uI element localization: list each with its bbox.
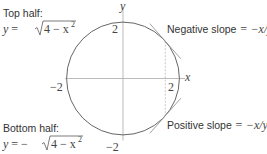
negative-slope-equation: = −x/y <box>239 22 267 36</box>
tick-label-y-top: 2 <box>112 22 118 36</box>
x-axis-label: x <box>184 70 191 84</box>
svg-text:y =: y = <box>2 22 18 36</box>
svg-text:y = −: y = − <box>2 137 28 151</box>
top-half-title: Top half: <box>3 7 43 19</box>
positive-slope-equation: = −x/y <box>235 118 267 132</box>
tick-label-y-bottom: −2 <box>106 140 119 154</box>
tick-label-x-right: 2 <box>168 80 174 94</box>
top-half-eq-radicand: 4 − x <box>44 22 69 36</box>
bottom-half-eq-exponent: 2 <box>78 135 82 144</box>
circle-slope-diagram: y x 2 −2 −2 2 Top half: y = 4 − x 2 Bott… <box>0 0 267 154</box>
positive-slope-text: Positive slope <box>167 119 235 131</box>
positive-slope-label: Positive slope = −x/y <box>167 118 267 132</box>
bottom-half-title: Bottom half: <box>3 122 59 134</box>
bottom-half-eq-equals: = − <box>8 137 28 151</box>
top-half-eq-exponent: 2 <box>71 20 75 29</box>
y-axis-label: y <box>119 0 126 13</box>
top-half-equation: y = 4 − x 2 <box>2 20 76 36</box>
bottom-half-eq-radicand: 4 − x <box>51 137 76 151</box>
top-half-eq-equals: = <box>8 22 18 36</box>
negative-slope-label: Negative slope = −x/y <box>167 22 267 36</box>
bottom-half-equation: y = − 4 − x 2 <box>2 135 83 151</box>
negative-slope-text: Negative slope <box>167 23 239 35</box>
tick-label-x-left: −2 <box>50 80 63 94</box>
